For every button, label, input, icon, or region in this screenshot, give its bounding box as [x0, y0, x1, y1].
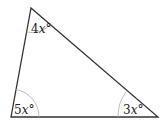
triangle-diagram: 4x° 5x° 3x° — [0, 0, 168, 123]
angle-label-bottom-right: 3x° — [123, 103, 143, 117]
angle-label-bottom-left: 5x° — [14, 103, 34, 117]
angle-label-top: 4x° — [31, 22, 51, 36]
